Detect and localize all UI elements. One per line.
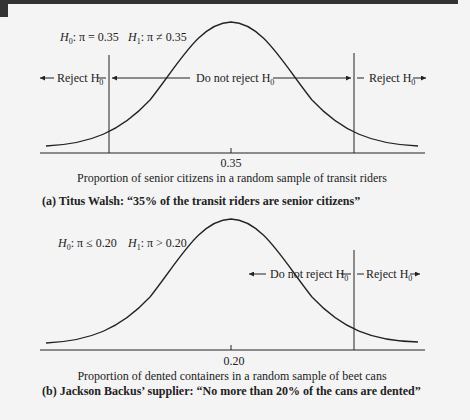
do-not-reject-label-b: Do not reject H0 [270, 267, 348, 283]
panel-b: H0: π ≤ 0.20 H1: π > 0.20 Do not reject … [40, 219, 425, 398]
caption-a: (a) Titus Walsh: “35% of the transit rid… [42, 194, 360, 208]
right-reject-label-a: Reject H0 [369, 71, 415, 87]
axis-label-b: Proportion of dented containers in a ran… [77, 369, 387, 383]
left-reject-label-a: Reject H0 [57, 71, 103, 87]
tick-label-a: 0.35 [221, 156, 242, 170]
h0-label-b: H0: π ≤ 0.20 [57, 236, 117, 252]
caption-b: (b) Jackson Backus’ supplier: “No more t… [42, 384, 421, 398]
hypothesis-test-figure: H0: π = 0.35 H1: π ≠ 0.35 Reject H0 Do n… [0, 0, 470, 420]
tick-label-b: 0.20 [224, 354, 245, 368]
h0-label-a: H0: π = 0.35 [59, 30, 119, 46]
panel-a: H0: π = 0.35 H1: π ≠ 0.35 Reject H0 Do n… [40, 22, 426, 208]
h1-label-a: H1: π ≠ 0.35 [127, 30, 187, 46]
axis-label-a: Proportion of senior citizens in a rando… [77, 171, 387, 185]
right-reject-label-b: Reject H0 [366, 267, 412, 283]
h1-label-b: H1: π > 0.20 [127, 236, 187, 252]
do-not-reject-label-a: Do not reject H0 [196, 71, 274, 87]
